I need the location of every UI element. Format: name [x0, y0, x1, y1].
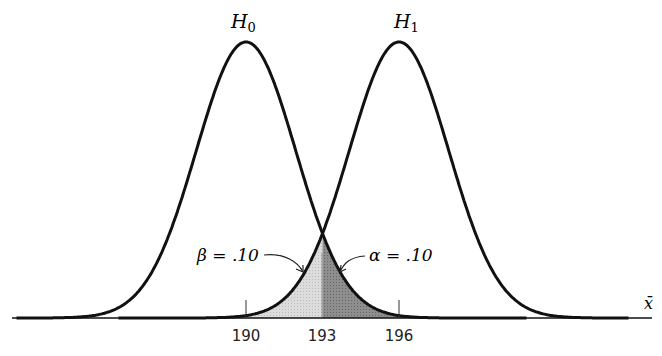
- h1-curve: [119, 42, 629, 318]
- hypothesis-test-chart: 190 193 196 H0 H1 β = .10 α = .10 x̄: [0, 0, 662, 356]
- alpha-label: α = .10: [369, 245, 433, 265]
- tick-label-190: 190: [232, 327, 261, 345]
- x-axis-label: x̄: [644, 294, 653, 313]
- h1-label: H1: [393, 10, 419, 35]
- tick-label-193: 193: [308, 327, 337, 345]
- h0-label: H0: [230, 10, 256, 35]
- h0-curve: [17, 42, 527, 318]
- tick-label-196: 196: [385, 327, 414, 345]
- beta-label: β = .10: [196, 245, 259, 265]
